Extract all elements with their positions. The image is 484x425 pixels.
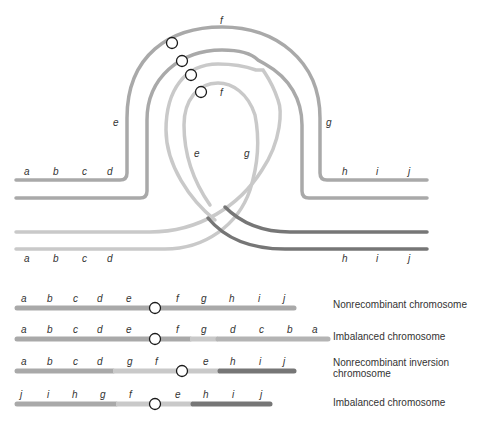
product-3-description-line2: chromosome (333, 368, 449, 379)
svg-text:d: d (97, 293, 103, 304)
chromosome-strand-2 (16, 50, 427, 198)
product-row-2: a b c d e f g d c b a (17, 324, 328, 345)
centromere (150, 399, 161, 410)
product-row-1: a b c d e f g h i j (17, 293, 294, 314)
product-row-4: j i h g f e h i j (17, 389, 270, 410)
centromere-3 (186, 70, 197, 81)
svg-text:h: h (229, 293, 235, 304)
product-1-description: Nonrecombinant chromosome (333, 299, 467, 310)
centromere-2 (177, 56, 188, 67)
svg-text:d: d (97, 356, 103, 367)
label-e-left: e (113, 117, 119, 128)
product-2-description: Imbalanced chromosome (333, 331, 445, 342)
bottom-left-label-b: b (53, 253, 59, 264)
svg-text:f: f (155, 356, 159, 367)
bottom-left-label-d: d (107, 253, 113, 264)
svg-text:c: c (259, 324, 264, 335)
svg-text:h: h (72, 389, 78, 400)
product-3-description-line1: Nonrecombinant inversion (333, 357, 449, 368)
svg-text:d: d (230, 324, 236, 335)
bottom-right-label-j: j (406, 253, 411, 264)
svg-text:c: c (73, 293, 78, 304)
product-row-3: a b c d g f e h i j (17, 356, 294, 377)
svg-text:f: f (176, 293, 180, 304)
svg-text:j: j (281, 293, 286, 304)
centromere-4 (196, 87, 207, 98)
centromere (150, 303, 161, 314)
centromere (177, 366, 188, 377)
svg-text:d: d (97, 324, 103, 335)
svg-text:g: g (201, 293, 207, 304)
svg-text:b: b (47, 356, 53, 367)
label-g-right: g (326, 117, 332, 128)
svg-text:i: i (258, 293, 261, 304)
bottom-right-label-i: i (376, 253, 379, 264)
svg-text:g: g (201, 324, 207, 335)
svg-text:j: j (18, 389, 23, 400)
svg-text:a: a (312, 324, 318, 335)
top-right-label-j: j (406, 166, 411, 177)
centromere-1 (167, 38, 178, 49)
top-left-label-c: c (82, 166, 87, 177)
label-f-inner: f (220, 87, 224, 98)
top-left-label-b: b (53, 166, 59, 177)
svg-text:a: a (21, 356, 27, 367)
svg-text:e: e (175, 389, 181, 400)
svg-text:g: g (127, 356, 133, 367)
svg-text:j: j (258, 389, 263, 400)
product-3-description: Nonrecombinant inversion chromosome (333, 357, 449, 379)
svg-text:h: h (230, 356, 236, 367)
svg-text:h: h (203, 389, 209, 400)
product-4-description: Imbalanced chromosome (333, 397, 445, 408)
bottom-left-label-a: a (24, 253, 30, 264)
label-e-inner: e (194, 148, 200, 159)
svg-text:c: c (73, 324, 78, 335)
svg-text:g: g (100, 389, 106, 400)
svg-text:i: i (232, 389, 235, 400)
svg-text:b: b (47, 324, 53, 335)
chromosome-strand-3-dark (225, 207, 427, 232)
svg-text:i: i (47, 389, 50, 400)
svg-text:c: c (73, 356, 78, 367)
top-right-label-h: h (342, 166, 348, 177)
svg-text:f: f (129, 389, 133, 400)
svg-text:f: f (176, 324, 180, 335)
svg-text:e: e (203, 356, 209, 367)
bottom-right-label-h: h (342, 253, 348, 264)
svg-text:b: b (47, 293, 53, 304)
top-right-label-i: i (376, 166, 379, 177)
svg-text:i: i (259, 356, 262, 367)
bottom-left-label-c: c (82, 253, 87, 264)
top-left-label-a: a (24, 166, 30, 177)
svg-text:e: e (126, 293, 132, 304)
label-f-top: f (220, 15, 224, 26)
svg-text:b: b (287, 324, 293, 335)
label-g-inner: g (244, 148, 250, 159)
svg-text:a: a (21, 324, 27, 335)
svg-text:e: e (126, 324, 132, 335)
centromere (150, 334, 161, 345)
top-left-label-d: d (107, 166, 113, 177)
svg-text:j: j (281, 356, 286, 367)
svg-text:a: a (21, 293, 27, 304)
